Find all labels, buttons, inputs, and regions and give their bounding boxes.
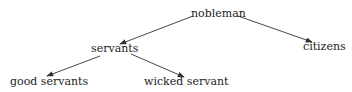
edge-nobleman-servants <box>120 16 193 44</box>
node-wicked-servant: wicked servant <box>144 75 229 88</box>
edge-nobleman-citizens <box>238 16 312 42</box>
node-nobleman: nobleman <box>191 7 246 20</box>
node-servants: servants <box>91 42 138 55</box>
node-citizens: citizens <box>303 40 346 53</box>
edge-servants-wicked_servant <box>131 54 184 77</box>
edge-servants-good_servants <box>47 56 100 76</box>
node-good-servants: good servants <box>10 75 88 88</box>
tree-diagram: nobleman citizens servants good servants… <box>0 0 352 92</box>
